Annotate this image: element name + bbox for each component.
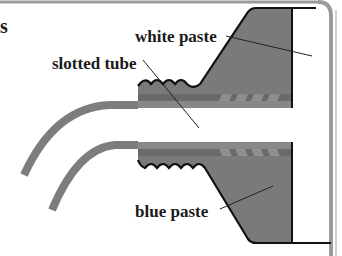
slotted-tube-label: slotted tube — [52, 55, 137, 72]
blue-paste-label: blue paste — [135, 203, 208, 220]
title-fragment: s — [0, 16, 8, 36]
tube-lower-wall — [52, 145, 138, 210]
lower-paste-chamber — [138, 142, 331, 243]
upper-paste-chamber — [138, 8, 316, 108]
slotted-tube — [24, 105, 138, 210]
white-paste-label: white paste — [135, 28, 217, 45]
